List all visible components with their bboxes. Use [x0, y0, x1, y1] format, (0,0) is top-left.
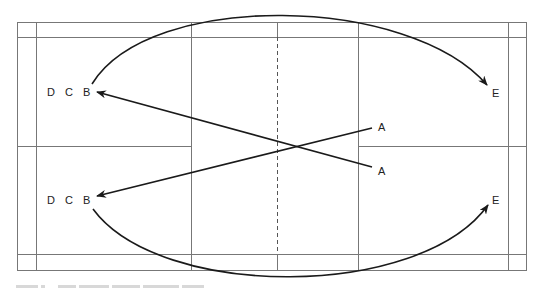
label-bottom-d: D	[47, 195, 55, 206]
label-a-lower: A	[378, 166, 385, 177]
arrow-bottom-curve	[93, 205, 488, 277]
label-e-top: E	[492, 88, 499, 99]
label-bottom-c: C	[65, 195, 73, 206]
label-top-d: D	[47, 87, 55, 98]
label-e-bottom: E	[492, 195, 499, 206]
label-a-upper: A	[378, 122, 385, 133]
arrow-top-curve	[92, 15, 487, 85]
court-diagram	[0, 0, 540, 292]
label-bottom-b: B	[83, 195, 90, 206]
figure-caption-blurred	[16, 285, 204, 288]
arrow-a-to-bottom-b	[97, 128, 372, 196]
label-top-c: C	[65, 87, 73, 98]
label-top-b: B	[83, 87, 90, 98]
arrow-a-to-top-b	[97, 92, 372, 167]
